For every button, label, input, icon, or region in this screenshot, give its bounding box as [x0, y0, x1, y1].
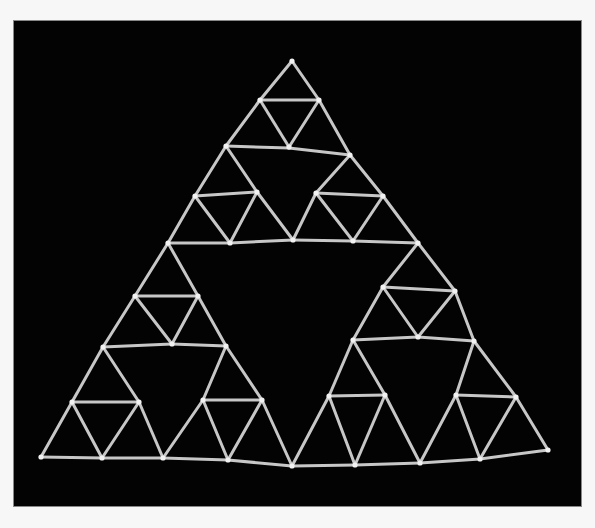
joint: [286, 144, 291, 149]
joint: [477, 456, 482, 461]
stick: [168, 196, 195, 243]
stick: [316, 193, 383, 196]
joint: [350, 337, 355, 342]
stick: [203, 400, 228, 460]
stick: [292, 396, 329, 466]
joint: [259, 397, 264, 402]
sticks-group: [41, 61, 548, 466]
stick: [293, 193, 316, 240]
stick: [383, 196, 418, 243]
joint: [415, 334, 420, 339]
stick: [418, 337, 474, 341]
stick: [329, 395, 385, 396]
joint: [471, 338, 476, 343]
joint: [132, 293, 137, 298]
joint: [347, 152, 352, 157]
stick: [198, 296, 226, 346]
joint: [257, 97, 262, 102]
stick: [172, 296, 198, 344]
stick: [289, 100, 319, 147]
stick: [329, 396, 355, 465]
stick: [383, 287, 455, 291]
stick: [228, 460, 292, 466]
stick: [163, 400, 203, 458]
stick: [350, 155, 383, 196]
joint: [326, 393, 331, 398]
stick: [480, 397, 516, 459]
stick: [262, 400, 292, 466]
joint: [289, 58, 294, 63]
joint: [254, 189, 259, 194]
stick: [72, 347, 103, 402]
stick: [355, 463, 420, 465]
stick: [292, 465, 355, 466]
stick: [195, 196, 230, 243]
stick: [383, 243, 418, 287]
stick: [226, 146, 257, 192]
stick: [260, 100, 289, 147]
stick: [329, 340, 353, 396]
joint: [195, 293, 200, 298]
stick: [355, 395, 385, 465]
joint: [313, 190, 318, 195]
stick: [480, 450, 548, 459]
joint: [192, 193, 197, 198]
stick: [353, 196, 383, 241]
stick: [385, 395, 420, 463]
joint: [453, 392, 458, 397]
joint: [225, 457, 230, 462]
joint: [352, 462, 357, 467]
stick: [226, 146, 289, 148]
stick: [316, 155, 350, 193]
stick: [260, 61, 292, 100]
stick: [353, 337, 418, 340]
stick: [226, 100, 260, 146]
joint: [380, 193, 385, 198]
stick: [316, 193, 353, 241]
stick: [230, 192, 257, 243]
stick: [195, 146, 226, 196]
stick: [135, 243, 168, 296]
stick: [293, 240, 353, 241]
stick: [203, 346, 226, 400]
stick: [474, 341, 516, 397]
joint: [169, 341, 174, 346]
joint: [38, 454, 43, 459]
joint: [289, 463, 294, 468]
stick: [41, 402, 72, 457]
joint: [223, 143, 228, 148]
joint: [160, 455, 165, 460]
stick: [420, 395, 456, 463]
joint: [99, 455, 104, 460]
stick: [292, 61, 319, 100]
stick: [103, 347, 139, 402]
stick: [135, 296, 172, 344]
stick: [353, 340, 385, 395]
joint: [227, 240, 232, 245]
stick: [230, 240, 293, 243]
joint: [415, 240, 420, 245]
joint: [69, 399, 74, 404]
stick: [456, 395, 516, 397]
stick: [226, 346, 262, 400]
joint: [290, 237, 295, 242]
joint: [545, 447, 550, 452]
stick: [139, 402, 163, 458]
stick: [418, 291, 455, 337]
stick: [516, 397, 548, 450]
stick: [383, 287, 418, 337]
stick: [102, 402, 139, 458]
stick: [103, 344, 172, 347]
joint: [382, 392, 387, 397]
stick: [228, 400, 262, 460]
stick: [103, 296, 135, 347]
stick: [353, 287, 383, 340]
joint: [200, 397, 205, 402]
joint: [513, 394, 518, 399]
joint: [100, 344, 105, 349]
stick: [456, 341, 474, 395]
stick: [353, 241, 418, 243]
stick: [455, 291, 474, 341]
joints-group: [38, 58, 550, 468]
stick: [168, 243, 198, 296]
